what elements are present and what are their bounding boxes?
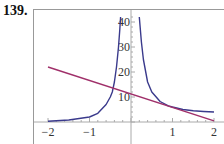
- x-tick-label: −1: [83, 125, 96, 139]
- function-plot: −2−11210203040: [0, 0, 224, 144]
- x-tick-label: 2: [211, 125, 217, 139]
- curve-right-branch: [139, 17, 214, 112]
- x-tick-label: −2: [42, 125, 55, 139]
- x-tick-label: 1: [170, 125, 176, 139]
- y-tick-label: 20: [118, 65, 130, 79]
- curve-left-branch: [48, 17, 121, 121]
- y-tick-label: 30: [118, 40, 130, 54]
